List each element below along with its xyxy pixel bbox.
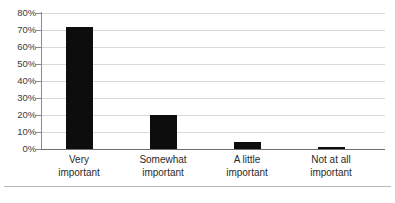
gridline-60 — [42, 47, 385, 48]
x-tick-label-very-important: Very important — [33, 153, 125, 179]
x-tick-label-not-at-all-important-line1: Not at all — [285, 153, 377, 166]
y-tick-label-70: 70% — [2, 25, 36, 35]
y-tick-label-60-wrap: 60% — [0, 42, 36, 52]
x-tick-label-not-at-all-important: Not at all important — [285, 153, 377, 179]
y-tick-label-60: 60% — [2, 42, 36, 52]
bar-very-important — [66, 27, 93, 149]
y-tick-0 — [36, 149, 41, 150]
x-axis-line — [41, 149, 385, 150]
x-tick-label-a-little-important-line2: important — [201, 166, 293, 179]
bar-a-little-important — [234, 142, 261, 149]
gridline-70 — [42, 30, 385, 31]
y-tick-10 — [36, 132, 41, 133]
y-tick-label-40: 40% — [2, 76, 36, 86]
x-tick-label-somewhat-important-line2: important — [117, 166, 209, 179]
y-tick-label-0-wrap: 0% — [0, 144, 36, 154]
x-tick-label-a-little-important-line1: A little — [201, 153, 293, 166]
bar-somewhat-important — [150, 115, 177, 149]
x-tick-label-not-at-all-important-line2: important — [285, 166, 377, 179]
x-tick-label-somewhat-important-line1: Somewhat — [117, 153, 209, 166]
x-tick-label-very-important-line1: Very — [33, 153, 125, 166]
bottom-divider — [4, 186, 391, 187]
y-tick-80 — [36, 13, 41, 14]
y-tick-label-10: 10% — [2, 127, 36, 137]
y-tick-30 — [36, 98, 41, 99]
gridline-20 — [42, 115, 385, 116]
gridline-80 — [42, 13, 385, 14]
y-tick-label-40-wrap: 40% — [0, 76, 36, 86]
gridline-30 — [42, 98, 385, 99]
bar-chart-figure: 80% 70% 60% 50% 40% 30% 20% 10% 0% Very … — [0, 0, 395, 203]
gridline-40 — [42, 81, 385, 82]
y-tick-40 — [36, 81, 41, 82]
y-tick-70 — [36, 30, 41, 31]
y-tick-label-20: 20% — [2, 110, 36, 120]
y-tick-label-20-wrap: 20% — [0, 110, 36, 120]
x-tick-label-somewhat-important: Somewhat important — [117, 153, 209, 179]
y-tick-label-10-wrap: 10% — [0, 127, 36, 137]
y-tick-label-70-wrap: 70% — [0, 25, 36, 35]
y-tick-label-0: 0% — [2, 144, 36, 154]
y-tick-label-50: 50% — [2, 59, 36, 69]
y-tick-label-30: 30% — [2, 93, 36, 103]
x-tick-label-a-little-important: A little important — [201, 153, 293, 179]
y-tick-label-30-wrap: 30% — [0, 93, 36, 103]
y-tick-50 — [36, 64, 41, 65]
y-tick-60 — [36, 47, 41, 48]
gridline-50 — [42, 64, 385, 65]
x-tick-label-very-important-line2: important — [33, 166, 125, 179]
y-axis-line — [41, 12, 42, 150]
gridline-10 — [42, 132, 385, 133]
y-tick-20 — [36, 115, 41, 116]
y-tick-label-80: 80% — [2, 8, 36, 18]
plot-area — [42, 13, 385, 149]
y-tick-label-80-wrap: 80% — [0, 8, 36, 18]
y-tick-label-50-wrap: 50% — [0, 59, 36, 69]
